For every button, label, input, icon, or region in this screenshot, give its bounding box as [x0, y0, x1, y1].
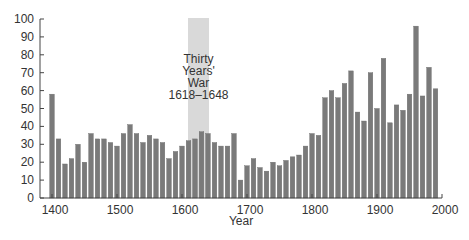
- bar-1570: [160, 143, 165, 198]
- bar-1600: [180, 146, 185, 198]
- bar-1470: [95, 139, 100, 198]
- bar-1500: [115, 146, 120, 198]
- bar-1640: [206, 134, 211, 198]
- bar-1550: [147, 135, 152, 198]
- y-tick-label: 70: [21, 66, 35, 80]
- bar-1750: [277, 166, 282, 198]
- bar-1430: [69, 159, 74, 198]
- bar-1590: [173, 151, 178, 198]
- annotation-label: ThirtyYears'War1618–1648: [168, 52, 228, 102]
- x-tick-label: 1900: [367, 203, 394, 217]
- bar-1870: [355, 112, 360, 198]
- bar-1770: [290, 157, 295, 198]
- bar-1630: [199, 132, 204, 198]
- bar-1970: [420, 96, 425, 198]
- y-tick-label: 0: [27, 191, 34, 205]
- bar-1850: [342, 83, 347, 198]
- bar-1740: [271, 162, 276, 198]
- bar-1940: [401, 110, 406, 198]
- bar-1790: [303, 146, 308, 198]
- bar-1910: [381, 58, 386, 198]
- bar-1650: [212, 143, 217, 198]
- bar-1710: [251, 159, 256, 198]
- bar-1930: [394, 105, 399, 198]
- bar-1820: [323, 98, 328, 198]
- y-tick-label: 40: [21, 119, 35, 133]
- x-tick-label: 1600: [172, 203, 199, 217]
- bar-1560: [154, 139, 159, 198]
- bar-1580: [167, 159, 172, 198]
- bar-1700: [245, 166, 250, 198]
- x-tick-label: 1500: [107, 203, 134, 217]
- bar-1830: [329, 91, 334, 198]
- y-tick-label: 30: [21, 137, 35, 151]
- bar-1480: [102, 139, 107, 198]
- y-tick-label: 20: [21, 155, 35, 169]
- bar-1460: [89, 134, 94, 198]
- bar-1660: [219, 146, 224, 198]
- x-tick-label: 2000: [432, 203, 459, 217]
- x-axis-title: Year: [229, 214, 253, 228]
- bar-1960: [414, 26, 419, 198]
- x-tick-label: 1800: [302, 203, 329, 217]
- annotation-line: 1618–1648: [168, 88, 228, 102]
- bar-1520: [128, 125, 133, 198]
- bar-1490: [108, 143, 113, 198]
- bar-1530: [134, 134, 139, 198]
- y-tick-label: 80: [21, 48, 35, 62]
- bar-1760: [284, 160, 289, 198]
- bar-1780: [297, 155, 302, 198]
- bar-chart: 0102030405060708090100140015001600170018…: [0, 0, 469, 240]
- bar-1950: [407, 94, 412, 198]
- bar-1840: [336, 98, 341, 198]
- bar-1690: [238, 180, 243, 198]
- bar-1620: [193, 139, 198, 198]
- bar-1920: [388, 123, 393, 198]
- x-tick-label: 1400: [42, 203, 69, 217]
- chart-canvas: 0102030405060708090100140015001600170018…: [0, 0, 469, 240]
- bar-1810: [316, 135, 321, 198]
- bar-1450: [82, 162, 87, 198]
- bar-1860: [349, 71, 354, 198]
- bar-1990: [433, 89, 438, 198]
- bar-1890: [368, 73, 373, 198]
- bar-1540: [141, 143, 146, 198]
- bars: [50, 26, 438, 198]
- bar-1610: [186, 141, 191, 198]
- y-tick-label: 10: [21, 173, 35, 187]
- bar-1670: [225, 146, 230, 198]
- bar-1680: [232, 134, 237, 198]
- y-tick-label: 60: [21, 84, 35, 98]
- y-tick-label: 50: [21, 102, 35, 116]
- bar-1900: [375, 109, 380, 199]
- bar-1880: [362, 121, 367, 198]
- y-tick-label: 90: [21, 30, 35, 44]
- bar-1800: [310, 134, 315, 198]
- bar-1400: [50, 94, 55, 198]
- bar-1440: [76, 144, 81, 198]
- y-tick-label: 100: [14, 12, 34, 26]
- bar-1410: [56, 139, 61, 198]
- bar-1730: [264, 171, 269, 198]
- bar-1980: [427, 67, 432, 198]
- bar-1720: [258, 168, 263, 198]
- bar-1510: [121, 134, 126, 198]
- bar-1420: [63, 164, 68, 198]
